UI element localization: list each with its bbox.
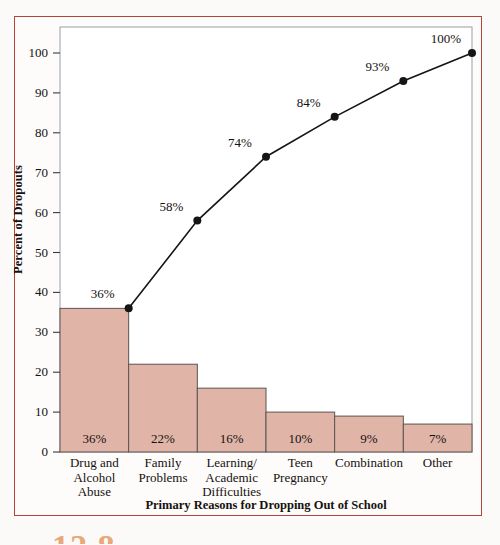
x-axis-category-label: Other [391, 456, 484, 471]
y-axis-tick-label: 20 [18, 364, 48, 380]
bar-value-label: 7% [403, 431, 472, 447]
y-axis-tick-label: 90 [18, 85, 48, 101]
x-axis-category-label-line: Other [391, 456, 484, 471]
y-axis-tick-label: 80 [18, 125, 48, 141]
cumulative-value-label: 36% [81, 286, 125, 302]
bar-value-label: 22% [129, 431, 198, 447]
y-axis-title: Percent of Dropouts [11, 150, 26, 290]
y-axis-tick-label: 0 [18, 444, 48, 460]
bar-value-label: 16% [197, 431, 266, 447]
cumulative-value-label: 58% [149, 199, 193, 215]
x-axis-category-label-line: Pregnancy [254, 471, 347, 486]
bar-value-label: 9% [335, 431, 404, 447]
cumulative-value-label: 100% [424, 31, 468, 47]
x-axis-category-label-line: Abuse [48, 485, 141, 500]
cumulative-value-label: 74% [218, 135, 262, 151]
cumulative-value-label: 84% [287, 95, 331, 111]
cumulative-value-label: 93% [355, 59, 399, 75]
x-axis-title: Primary Reasons for Dropping Out of Scho… [60, 498, 472, 513]
x-axis-category-label-line: Difficulties [185, 485, 278, 500]
figure-number: 12.8 [52, 529, 116, 544]
chart-labels-layer: 0102030405060708090100 Percent of Dropou… [0, 0, 500, 545]
bar-value-label: 36% [60, 431, 129, 447]
y-axis-tick-label: 30 [18, 324, 48, 340]
bar-value-label: 10% [266, 431, 335, 447]
y-axis-tick-label: 10 [18, 404, 48, 420]
y-axis-tick-label: 100 [18, 45, 48, 61]
